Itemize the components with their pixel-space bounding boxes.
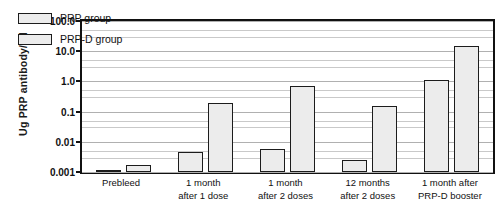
- x-axis-label-line: after 2 doses: [244, 190, 326, 203]
- plot-area: 100.010.01.00.10.010.001: [80, 19, 495, 174]
- x-axis-label-line: 1 month after: [409, 177, 491, 190]
- bar-prp: [178, 152, 203, 172]
- x-axis-label-line: Prebleed: [80, 177, 162, 190]
- x-axis-label-line: PRP-D booster: [409, 190, 491, 203]
- x-axis-label-line: 1 month: [162, 177, 244, 190]
- bar-series-layer: [82, 21, 493, 172]
- x-axis-label-line: after 2 doses: [327, 190, 409, 203]
- y-tick-label: 0.01: [21, 136, 82, 147]
- x-axis-label: 12 monthsafter 2 doses: [327, 177, 409, 202]
- legend-swatch-prpd: [18, 34, 52, 45]
- bar-prpd: [454, 46, 479, 172]
- legend-item-prpd: PRP-D group: [18, 30, 122, 48]
- legend-label-prpd: PRP-D group: [60, 33, 122, 45]
- bar-prpd: [372, 106, 397, 172]
- legend: PRP group PRP-D group: [18, 9, 122, 51]
- x-axis-label: Prebleed: [80, 177, 162, 190]
- legend-item-prp: PRP group: [18, 9, 122, 27]
- legend-swatch-prp: [18, 13, 52, 24]
- x-axis-label-line: 1 month: [244, 177, 326, 190]
- y-tick-label: 0.001: [21, 167, 82, 178]
- x-axis-labels: Prebleed1 monthafter 1 dose1 monthafter …: [80, 177, 495, 214]
- bar-prpd: [290, 86, 315, 172]
- gridline-major: [82, 172, 493, 173]
- x-axis-label-line: 12 months: [327, 177, 409, 190]
- chart-container: Ug PRP antibody/ml 100.010.01.00.10.010.…: [0, 0, 503, 214]
- bar-prpd: [208, 103, 233, 172]
- bar-prp: [96, 170, 121, 173]
- legend-label-prp: PRP group: [60, 12, 111, 24]
- x-axis-label: 1 monthafter 1 dose: [162, 177, 244, 202]
- x-axis-label-line: after 1 dose: [162, 190, 244, 203]
- bar-prp: [424, 80, 449, 172]
- x-axis-label: 1 monthafter 2 doses: [244, 177, 326, 202]
- y-tick-label: 0.1: [21, 106, 82, 117]
- bar-prpd: [126, 165, 151, 172]
- x-axis-label: 1 month afterPRP-D booster: [409, 177, 491, 202]
- y-tick-label: 1.0: [21, 76, 82, 87]
- bar-prp: [260, 149, 285, 173]
- bar-prp: [342, 160, 367, 172]
